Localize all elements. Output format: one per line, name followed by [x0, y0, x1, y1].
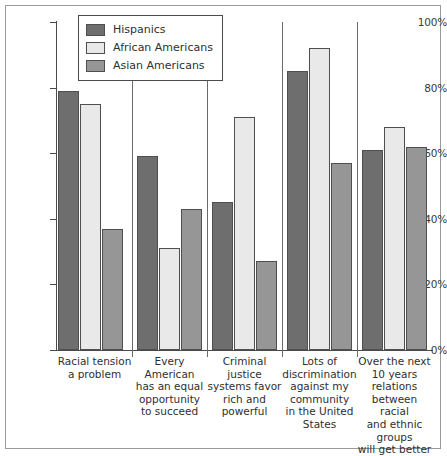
x-tick-label-line: Lots of [302, 355, 337, 367]
bar [181, 209, 202, 350]
x-tick-label-line: Over the next [358, 355, 430, 367]
bar [234, 117, 255, 350]
legend-label: Hispanics [113, 24, 166, 36]
x-tick-label-line: Criminal [223, 355, 267, 367]
x-tick-label-line: systems favor [208, 380, 282, 392]
y-tick-mark [50, 88, 57, 89]
x-tick-label-line: Every American [145, 355, 195, 380]
bar [256, 261, 277, 350]
x-tick-label-line: Racial tension [58, 355, 132, 367]
group-separator-tick [282, 350, 283, 357]
y-tick-mark [50, 350, 57, 351]
legend-swatch-icon [86, 60, 105, 72]
x-tick-label-line: rich and [223, 393, 266, 405]
bar-group [282, 22, 357, 350]
x-axis-labels: Racial tensiona problemEvery Americanhas… [57, 355, 432, 451]
x-tick-label-line: in the United [286, 405, 354, 417]
x-axis-line [56, 350, 433, 351]
bar [159, 248, 180, 350]
legend-swatch-icon [86, 24, 105, 36]
bar [58, 91, 79, 350]
y-tick-mark [50, 153, 57, 154]
bar [309, 48, 330, 350]
x-tick-label-line: groups [377, 431, 413, 443]
legend-item-asian-americans: Asian Americans [86, 57, 213, 75]
bar [362, 150, 383, 350]
legend-swatch-icon [86, 42, 105, 54]
bar [212, 202, 233, 350]
x-tick-label-line: discrimination [282, 368, 356, 380]
y-tick-mark [50, 219, 57, 220]
group-separator-tick [132, 350, 133, 357]
x-tick-label-line: against my [290, 380, 348, 392]
x-tick-label: Criminaljusticesystems favorrich andpowe… [207, 355, 282, 418]
bar [331, 163, 352, 350]
x-tick-label-line: relations [372, 380, 417, 392]
x-tick-label-line: opportunity [139, 393, 200, 405]
bar [287, 71, 308, 350]
x-tick-label-line: powerful [222, 405, 268, 417]
y-tick-mark [50, 22, 57, 23]
bar [102, 229, 123, 350]
group-separator-tick [207, 350, 208, 357]
x-tick-label-line: will get better [358, 443, 431, 455]
legend-item-hispanics: Hispanics [86, 21, 213, 39]
group-separator [282, 22, 283, 350]
bar-group [357, 22, 432, 350]
x-tick-label: Lots ofdiscriminationagainst mycommunity… [282, 355, 357, 431]
x-tick-label: Racial tensiona problem [57, 355, 132, 380]
x-tick-label-line: between racial [372, 393, 417, 418]
x-tick-label-line: 10 years [372, 368, 418, 380]
x-tick-label: Every Americanhas an equalopportunityto … [132, 355, 207, 418]
y-tick-mark [50, 284, 57, 285]
x-tick-label-line: and ethnic [367, 418, 423, 430]
x-tick-label-line: States [303, 418, 336, 430]
legend-item-african-americans: African Americans [86, 39, 213, 57]
chart-legend: HispanicsAfrican AmericansAsian American… [78, 15, 223, 81]
bar [406, 147, 427, 350]
x-tick-label-line: a problem [68, 368, 121, 380]
group-separator-tick [357, 350, 358, 357]
x-tick-label: Over the next10 yearsrelationsbetween ra… [357, 355, 432, 456]
x-tick-label-line: community [290, 393, 349, 405]
x-tick-label-line: to succeed [141, 405, 198, 417]
x-tick-label-line: has an equal [136, 380, 203, 392]
bar [80, 104, 101, 350]
group-separator [357, 22, 358, 350]
chart-figure: 0%20%40%60%80%100% Racial tensiona probl… [0, 0, 447, 456]
x-tick-label-line: justice [227, 368, 261, 380]
bar [384, 127, 405, 350]
legend-label: Asian Americans [113, 60, 205, 72]
bar [137, 156, 158, 350]
legend-label: African Americans [113, 42, 213, 54]
